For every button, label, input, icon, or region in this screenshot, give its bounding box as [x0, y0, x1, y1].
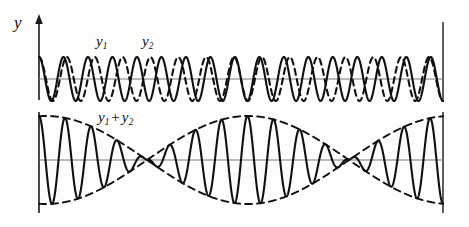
- wave-sum-label-second-sub: 2: [129, 117, 134, 127]
- wave-y1-label-base: y: [96, 33, 103, 49]
- wave-y2-label-base: y: [142, 33, 149, 49]
- y-axis-label-text: y: [14, 13, 22, 32]
- wave-y1-label: y1: [96, 33, 107, 50]
- wave-y2-label: y2: [142, 33, 153, 50]
- wave-sum-label-first: y: [98, 109, 105, 125]
- wave-plot-svg: [0, 0, 469, 227]
- wave-sum-label-plus: +: [109, 109, 121, 125]
- wave-y1-label-sub: 1: [103, 41, 108, 51]
- wave-sum-label-first-sub: 1: [105, 117, 110, 127]
- wave-y2-label-sub: 2: [149, 41, 154, 51]
- beats-figure: y y1 y2 y1+y2: [0, 0, 469, 227]
- y-axis-arrow-icon: [35, 14, 43, 24]
- y-axis-label: y: [14, 13, 22, 33]
- wave-sum-label-second: y: [122, 109, 129, 125]
- wave-sum-label: y1+y2: [98, 109, 133, 126]
